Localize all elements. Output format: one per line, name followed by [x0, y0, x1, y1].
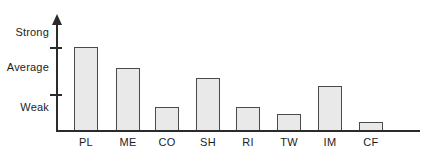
bar [74, 47, 98, 130]
x-axis-label: PL [66, 136, 106, 148]
bar [277, 114, 301, 130]
x-axis-label: CO [147, 136, 187, 148]
x-axis-label: TW [269, 136, 309, 148]
x-axis-label: RI [228, 136, 268, 148]
x-axis-label: IM [310, 136, 350, 148]
bar [236, 107, 260, 130]
plot-area: PLMECOSHRITWIMCF [0, 0, 437, 158]
bar [155, 107, 179, 130]
bar [196, 78, 220, 130]
x-axis-label: SH [188, 136, 228, 148]
bar [318, 86, 342, 130]
x-axis-label: ME [108, 136, 148, 148]
x-axis-label: CF [351, 136, 391, 148]
bar [359, 122, 383, 130]
bar [116, 68, 140, 130]
bar-chart: Strong Average Weak PLMECOSHRITWIMCF [0, 0, 437, 158]
